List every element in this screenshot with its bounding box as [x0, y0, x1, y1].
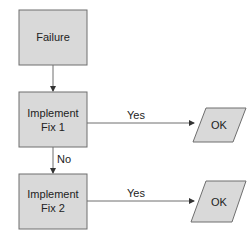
flowchart-diagram: Yes No Yes Failure Implement Fix 1 Imple…	[0, 0, 248, 240]
node-ok-2: OK	[191, 181, 246, 222]
edge-label-yes-2: Yes	[127, 187, 145, 199]
edge-label-no: No	[57, 153, 71, 165]
node-implement-fix-1: Implement Fix 1	[19, 92, 87, 147]
node-implement-fix-2: Implement Fix 2	[19, 174, 87, 229]
node-fix1-label-line1: Implement	[27, 107, 78, 119]
node-failure: Failure	[19, 10, 87, 65]
node-ok2-label: OK	[211, 196, 228, 208]
node-fix2-label-line2: Fix 2	[41, 202, 65, 214]
node-fix2-label-line1: Implement	[27, 188, 78, 200]
node-fix1-label-line2: Fix 1	[41, 121, 65, 133]
node-ok-1: OK	[193, 108, 246, 142]
node-ok1-label: OK	[211, 119, 228, 131]
node-failure-label: Failure	[36, 31, 70, 43]
edge-label-yes-1: Yes	[127, 109, 145, 121]
